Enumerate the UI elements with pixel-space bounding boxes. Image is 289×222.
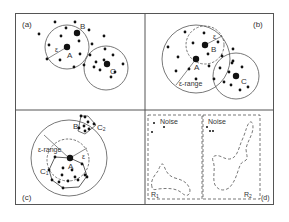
region-r1-label: R1	[151, 191, 159, 199]
panel-a: (a) B A C ε	[22, 20, 128, 90]
cluster-c2-label: C2	[97, 123, 106, 132]
epsilon-range-label: ε-range	[38, 146, 61, 154]
epsilon-label: ε	[55, 46, 58, 53]
panel-d: Noise Noise R1 R2 (d)	[148, 115, 270, 202]
point-c-label: C	[110, 67, 116, 76]
epsilon-circle-c	[84, 46, 128, 90]
point-c-label: C	[241, 77, 247, 86]
cluster-c1-label: C1	[40, 167, 49, 176]
panel-d-label: (d)	[261, 194, 270, 202]
point-b-label: B	[73, 122, 78, 131]
panel-b-label: (b)	[253, 20, 263, 29]
epsilon-label: ε	[213, 33, 216, 40]
panel-c: (c) B C2 A C1 ε ε-range	[22, 115, 107, 202]
region-r2	[213, 122, 253, 190]
panel-a-label: (a)	[22, 20, 32, 29]
point-a-label: A	[67, 51, 73, 60]
point-a-label: A	[68, 162, 74, 171]
point-a-label: A	[194, 63, 200, 72]
region-boxes	[148, 115, 260, 199]
panel-frame	[15, 13, 274, 205]
noise-label-2: Noise	[208, 118, 226, 125]
point-b-label: B	[80, 22, 85, 31]
dbscan-diagram: (a) B A C ε (b)	[0, 0, 289, 222]
panel-c-label: (c)	[22, 193, 32, 202]
region-r1	[152, 164, 190, 195]
point-b-label: B	[211, 45, 216, 54]
noise-label-1: Noise	[160, 118, 178, 125]
region-r2-label: R2	[244, 191, 252, 199]
epsilon-label: ε	[82, 153, 85, 160]
epsilon-range-label: ε-range	[179, 80, 202, 88]
panel-b: (b) B A C ε ε-range	[162, 20, 263, 99]
